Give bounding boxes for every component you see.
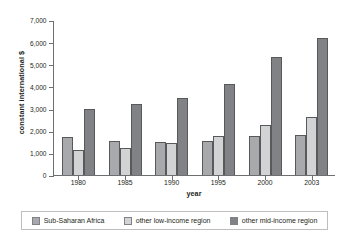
y-axis-tick-label: 5,000 (30, 62, 47, 70)
bar[interactable] (306, 117, 317, 175)
bar-group: 1995 (195, 21, 242, 175)
y-axis-tick-label: 2,000 (30, 128, 47, 136)
plot-area: 01,0002,0003,0004,0005,0006,0007,000 198… (53, 21, 335, 176)
y-axis-title: constant international $ (17, 23, 26, 163)
bar[interactable] (166, 143, 177, 175)
bar[interactable] (131, 104, 142, 175)
y-axis-tick-label: 1,000 (30, 150, 47, 158)
bar[interactable] (202, 141, 213, 175)
bar[interactable] (317, 38, 328, 175)
bar[interactable] (271, 57, 282, 175)
x-axis-tick-label: 1995 (195, 179, 242, 186)
y-axis-tick: 4,000 (49, 87, 54, 88)
legend-label: other mid-income region (242, 216, 317, 225)
y-axis-tick: 3,000 (49, 110, 54, 111)
bar[interactable] (120, 148, 131, 175)
x-axis-title: year (53, 189, 335, 198)
bar-group: 2003 (288, 21, 335, 175)
x-axis-tick-label: 2000 (242, 179, 289, 186)
bar[interactable] (295, 135, 306, 175)
bar-group: 2000 (242, 21, 289, 175)
bar[interactable] (84, 109, 95, 175)
bar-group: 1990 (148, 21, 195, 175)
bar[interactable] (249, 136, 260, 175)
legend-label: Sub-Saharan Africa (44, 216, 105, 225)
bar[interactable] (62, 137, 73, 175)
y-axis-tick: 6,000 (49, 43, 54, 44)
y-axis-tick: 1,000 (49, 154, 54, 155)
y-axis-tick-label: 7,000 (30, 17, 47, 25)
bar[interactable] (73, 150, 84, 175)
bar[interactable] (177, 98, 188, 175)
x-axis-tick-label: 2003 (288, 179, 335, 186)
y-axis-tick-label: 6,000 (30, 40, 47, 48)
legend-item[interactable]: Sub-Saharan Africa (32, 216, 105, 225)
legend-item[interactable]: other low-income region (124, 216, 211, 225)
y-axis-tick: 5,000 (49, 65, 54, 66)
x-axis-tick-label: 1985 (102, 179, 149, 186)
chart-legend: Sub-Saharan Africaother low-income regio… (21, 211, 328, 230)
y-axis-tick: 7,000 (49, 21, 54, 22)
legend-label: other low-income region (136, 216, 211, 225)
y-axis-tick: 2,000 (49, 132, 54, 133)
y-axis-tick-label: 3,000 (30, 106, 47, 114)
legend-swatch-icon (124, 217, 132, 225)
y-axis-tick-label: 4,000 (30, 84, 47, 92)
y-axis-tick: 0 (49, 176, 54, 177)
bar[interactable] (224, 84, 235, 175)
bar[interactable] (155, 142, 166, 175)
bar-group: 1980 (55, 21, 102, 175)
legend-swatch-icon (32, 217, 40, 225)
x-axis-tick-label: 1980 (55, 179, 102, 186)
legend-item[interactable]: other mid-income region (230, 216, 317, 225)
legend-swatch-icon (230, 217, 238, 225)
bar[interactable] (109, 141, 120, 175)
bar[interactable] (260, 125, 271, 175)
x-axis-tick-label: 1990 (148, 179, 195, 186)
bar-group: 1985 (102, 21, 149, 175)
bar-chart: constant international $ 01,0002,0003,00… (0, 0, 349, 240)
y-axis-tick-label: 0 (43, 172, 47, 180)
bar[interactable] (213, 136, 224, 175)
bar-groups: 198019851990199520002003 (55, 21, 335, 175)
